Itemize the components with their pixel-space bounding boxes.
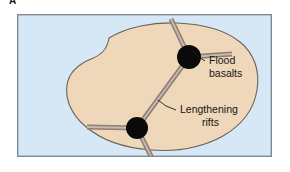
figure-root: A FloodbasaltsLengthen (0, 0, 290, 172)
panel-letter: A (9, 0, 16, 6)
southern-triple-junction (126, 117, 148, 139)
label-lengthening-rifts-line2: rifts (202, 116, 219, 128)
rift-diagram-svg: FloodbasaltsLengtheningrifts (17, 14, 272, 157)
label-flood-basalts-line1: Flood (209, 54, 235, 66)
diagram-frame: FloodbasaltsLengtheningrifts (17, 14, 272, 157)
label-lengthening-rifts-line1: Lengthening (180, 103, 238, 115)
northern-triple-junction (177, 45, 201, 69)
label-flood-basalts-line2: basalts (209, 67, 242, 79)
